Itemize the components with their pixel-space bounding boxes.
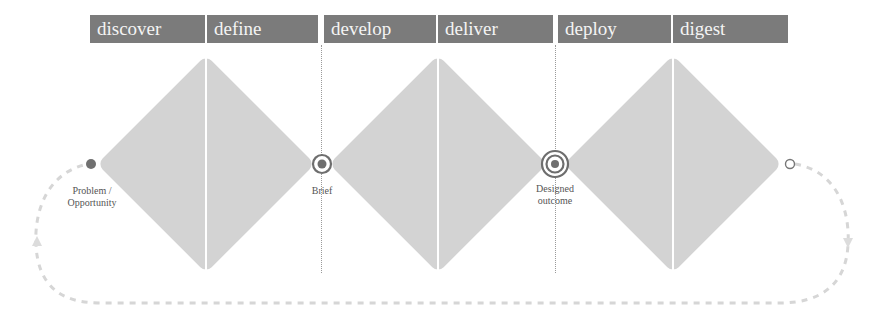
phase-header-discover: discover — [90, 15, 205, 43]
diamond-split-line — [437, 43, 439, 275]
phase-header-develop: develop — [324, 15, 436, 43]
loop-arrow-icon-left — [32, 236, 42, 246]
designed-outcome-target-icon — [540, 149, 570, 179]
diamond-split-line — [205, 43, 207, 275]
milestone-label-line: Opportunity — [52, 197, 132, 209]
milestone-label-line: Designed — [525, 183, 585, 195]
phase-header-deliver: deliver — [438, 15, 553, 43]
milestone-label-problem-opportunity: Problem / Opportunity — [52, 185, 132, 209]
milestone-label-designed-outcome: Designed outcome — [525, 183, 585, 207]
loop-arrow-icon-right — [843, 238, 853, 248]
diamond-split-line — [672, 43, 674, 275]
brief-target-icon — [311, 153, 333, 175]
phase-header-deploy: deploy — [558, 15, 671, 43]
phase-header-define: define — [207, 15, 318, 43]
milestone-label-line: outcome — [525, 195, 585, 207]
double-diamond-diagram: discover define develop deliver deploy d… — [0, 0, 878, 327]
milestone-label-line: Problem / — [52, 185, 132, 197]
milestone-label-brief: Brief — [302, 185, 342, 197]
start-dot-icon — [84, 158, 98, 172]
end-hollow-circle-icon — [783, 157, 797, 171]
phase-header-digest: digest — [673, 15, 788, 43]
